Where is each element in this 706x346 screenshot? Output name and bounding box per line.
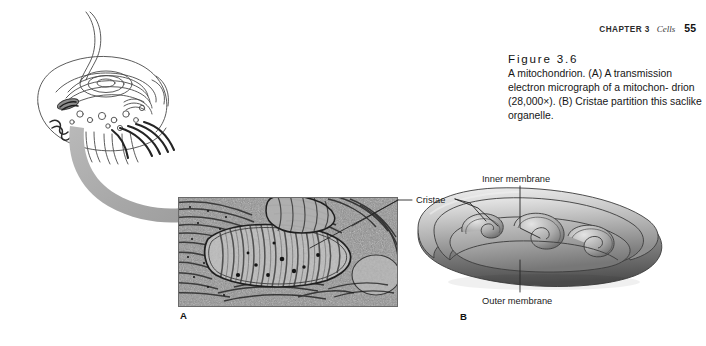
caption-line-1: A mitochondrion. (A) A transmission [508, 68, 672, 79]
figure-caption: Figure 3.6 A mitochondrion. (A) A transm… [508, 52, 704, 123]
label-inner-membrane: Inner membrane [482, 174, 550, 184]
panel-b-diagram [404, 170, 700, 310]
panel-a-label: A [180, 310, 187, 321]
running-head-chapter: CHAPTER 3 [599, 25, 649, 34]
label-cristae: Cristae [416, 195, 445, 205]
figure-caption-text: A mitochondrion. (A) A transmission elec… [508, 67, 704, 123]
panel-a-micrograph [178, 197, 398, 307]
running-head: CHAPTER 3 Cells 55 [599, 22, 696, 34]
page-number: 55 [684, 22, 696, 34]
figure-number: Figure 3.6 [508, 52, 704, 65]
label-outer-membrane: Outer membrane [482, 296, 552, 306]
figure-page: CHAPTER 3 Cells 55 [0, 0, 706, 346]
caption-line-2: electron micrograph of a mitochon- [508, 82, 669, 93]
panel-b-label: B [460, 311, 467, 322]
running-head-section: Cells [657, 24, 676, 34]
